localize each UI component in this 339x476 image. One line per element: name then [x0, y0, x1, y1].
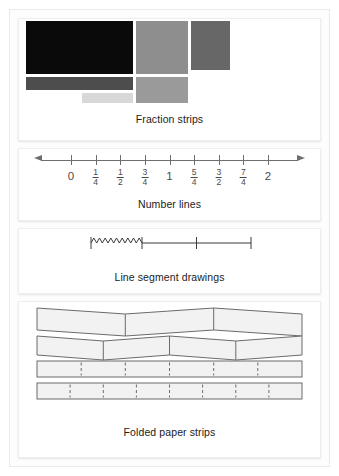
strip-8-sections: [37, 383, 302, 399]
number-line-label-3-over-4: 34: [142, 168, 149, 187]
fraction-denominator: 4: [92, 177, 99, 187]
line-segments-caption: Line segment drawings: [19, 271, 320, 283]
number-line-tick: [219, 155, 220, 165]
folded-strips-caption: Folded paper strips: [19, 426, 320, 438]
fraction-numerator: 3: [215, 168, 222, 177]
number-line-tick: [268, 155, 269, 165]
fraction-strips-canvas: [19, 19, 320, 111]
fraction-numerator: 7: [240, 168, 247, 177]
fraction-numerator: 1: [92, 168, 99, 177]
folded-strips-canvas: [19, 302, 320, 418]
strip-outline: [37, 308, 302, 336]
number-line-tick: [120, 155, 121, 165]
number-line-tick: [243, 155, 244, 165]
number-line-tick: [170, 155, 171, 165]
number-line-label-2: 2: [265, 168, 271, 183]
arrow-right-icon: [297, 155, 305, 161]
number-line-tick: [194, 155, 195, 165]
number-lines-caption: Number lines: [19, 198, 320, 210]
fraction-numerator: 5: [191, 168, 198, 177]
number-line-tick: [145, 155, 146, 165]
fraction-numerator: 1: [117, 168, 124, 177]
fraction-numerator: 3: [142, 168, 149, 177]
number-line-label-1: 1: [166, 168, 172, 183]
number-line-label-5-over-4: 54: [191, 168, 198, 187]
line-segment-drawing: [19, 229, 320, 271]
strip-6-sections: [37, 361, 302, 377]
block-lightgray-bar: [82, 93, 133, 103]
block-gray-medium-small: [136, 77, 188, 103]
fraction-denominator: 2: [117, 177, 124, 187]
number-line-label-3-over-2: 32: [215, 168, 222, 187]
strip-4-sections: [37, 336, 302, 360]
fraction-denominator: 4: [191, 177, 198, 187]
squiggle-segment: [91, 238, 142, 243]
fraction-glyph: 54: [191, 168, 198, 186]
panel-fraction-strips: Fraction strips: [18, 18, 321, 141]
fraction-denominator: 4: [142, 177, 149, 187]
panel-number-lines: 014123415432742 Number lines: [18, 148, 321, 221]
panel-folded-strips: Folded paper strips: [18, 301, 321, 458]
fraction-glyph: 34: [142, 168, 149, 186]
folded-paper-strips-drawing: [19, 302, 320, 418]
fraction-denominator: 4: [240, 177, 247, 187]
number-line-label-1-over-4: 14: [92, 168, 99, 187]
line-segment-canvas: [19, 229, 320, 271]
arrow-left-icon: [34, 155, 42, 161]
panel-stack: Fraction strips 014123415432742 Number l…: [18, 18, 321, 458]
fraction-glyph: 32: [215, 168, 222, 186]
fraction-glyph: 74: [240, 168, 247, 186]
block-gray-medium: [136, 21, 188, 74]
number-line-canvas: 014123415432742: [19, 149, 320, 198]
fraction-glyph: 12: [117, 168, 124, 186]
number-line-label-7-over-4: 74: [240, 168, 247, 187]
number-line-label-1-over-2: 12: [117, 168, 124, 187]
fraction-strips-caption: Fraction strips: [19, 113, 320, 125]
fraction-denominator: 2: [215, 177, 222, 187]
fraction-glyph: 14: [92, 168, 99, 186]
strip-3-sections: [37, 308, 302, 336]
number-line-tick: [71, 155, 72, 165]
panel-line-segments: Line segment drawings: [18, 228, 321, 294]
block-gray-dark: [191, 21, 230, 70]
figure-root: Fraction strips 014123415432742 Number l…: [0, 0, 339, 476]
number-line-tick: [96, 155, 97, 165]
block-darkgray-bar: [26, 77, 133, 90]
block-black-large: [26, 21, 133, 74]
number-line-label-0: 0: [68, 168, 74, 183]
